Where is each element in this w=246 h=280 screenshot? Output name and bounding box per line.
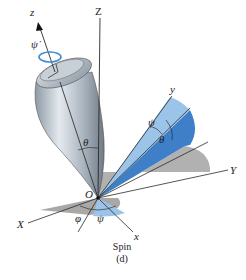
label-O: O bbox=[85, 188, 93, 200]
z-axis-arrowhead bbox=[36, 22, 43, 31]
label-psi-upper: ψ bbox=[148, 116, 155, 128]
caption-title: Spin bbox=[113, 241, 131, 252]
label-theta-body: θ bbox=[83, 136, 89, 148]
label-y: y bbox=[169, 83, 175, 95]
caption-sublabel: (d) bbox=[116, 253, 128, 265]
label-z: z bbox=[29, 6, 35, 18]
label-phi: φ bbox=[75, 212, 81, 224]
label-X: X bbox=[16, 218, 25, 230]
label-theta-plane: θ bbox=[159, 133, 165, 145]
label-psi-lower: ψ bbox=[97, 212, 104, 224]
origin-point bbox=[96, 196, 100, 200]
label-Z: Z bbox=[95, 5, 102, 17]
label-x: x bbox=[133, 230, 139, 242]
label-Y: Y bbox=[230, 164, 238, 176]
z-axis bbox=[40, 28, 55, 72]
label-psi-dot: ψ̇ bbox=[31, 38, 42, 50]
top-body bbox=[35, 72, 104, 198]
spin-diagram: Z z ψ̇ θ y ψ θ Y O φ ψ X x Spin (d) bbox=[0, 0, 246, 280]
